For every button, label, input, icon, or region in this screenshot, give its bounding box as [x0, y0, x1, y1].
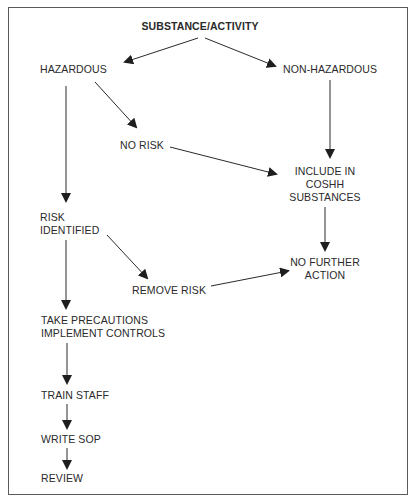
node-substance-activity: SUBSTANCE/ACTIVITY [141, 20, 258, 33]
node-non-hazardous: NON-HAZARDOUS [283, 63, 377, 76]
node-label-line: IMPLEMENT CONTROLS [41, 327, 165, 340]
node-risk-identified: RISK IDENTIFIED [40, 211, 99, 237]
node-label: SUBSTANCE/ACTIVITY [141, 20, 258, 33]
node-label: NO RISK [120, 139, 164, 152]
node-label: TRAIN STAFF [41, 389, 109, 402]
node-label-line: SUBSTANCES [289, 191, 360, 204]
node-label-line: COSHH [289, 178, 360, 191]
node-label-line: RISK [40, 211, 99, 224]
node-train-staff: TRAIN STAFF [41, 389, 109, 402]
arrow-hazardous-to-no-risk [95, 82, 136, 127]
arrow-remove-risk-to-no-further-action [211, 271, 288, 286]
arrow-risk-identified-to-remove-risk [107, 235, 147, 278]
node-label: WRITE SOP [41, 433, 101, 446]
node-label-line: TAKE PRECAUTIONS [41, 314, 165, 327]
node-hazardous: HAZARDOUS [40, 63, 107, 76]
arrow-root-to-hazardous [125, 38, 198, 62]
node-label-line: NO FURTHER [290, 256, 360, 269]
node-label: NON-HAZARDOUS [283, 63, 377, 76]
node-label-line: INCLUDE IN [289, 165, 360, 178]
node-label-line: IDENTIFIED [40, 224, 99, 237]
node-remove-risk: REMOVE RISK [132, 284, 206, 297]
arrow-root-to-non-hazardous [205, 38, 275, 66]
node-no-risk: NO RISK [120, 139, 164, 152]
node-label: HAZARDOUS [40, 63, 107, 76]
node-take-precautions: TAKE PRECAUTIONS IMPLEMENT CONTROLS [41, 314, 165, 340]
node-label: REVIEW [41, 472, 83, 485]
node-label-line: ACTION [290, 269, 360, 282]
node-no-further-action: NO FURTHER ACTION [290, 256, 360, 282]
node-review: REVIEW [41, 472, 83, 485]
arrow-no-risk-to-include [170, 147, 276, 174]
node-include-in-coshh: INCLUDE IN COSHH SUBSTANCES [289, 165, 360, 204]
node-write-sop: WRITE SOP [41, 433, 101, 446]
node-label: REMOVE RISK [132, 284, 206, 297]
